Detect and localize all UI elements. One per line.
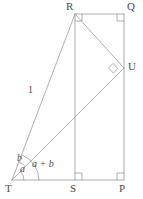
- angle-label-a-plus-b: a + b: [32, 159, 54, 169]
- right-angle-at-U: [109, 64, 118, 73]
- vertex-label-R: R: [66, 1, 73, 12]
- right-angle-at-Q: [117, 14, 124, 21]
- angle-label-b: b: [17, 153, 22, 163]
- segment-R-U: [75, 14, 124, 68]
- geometry-diagram: R Q U T S P 1 a b a + b: [0, 0, 143, 199]
- vertex-label-S: S: [70, 183, 76, 194]
- right-angle-at-P: [117, 173, 124, 180]
- vertex-label-U: U: [128, 61, 136, 72]
- angle-label-a: a: [20, 164, 25, 174]
- side-length-label-TR: 1: [28, 85, 33, 95]
- vertex-label-Q: Q: [127, 1, 135, 12]
- right-angle-at-S: [75, 173, 82, 180]
- vertex-label-T: T: [5, 183, 12, 194]
- vertex-label-P: P: [119, 183, 125, 194]
